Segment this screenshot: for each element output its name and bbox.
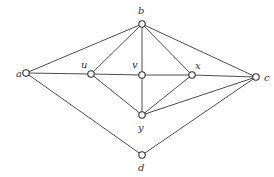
- node-label-y: y: [137, 122, 144, 133]
- node-label-v: v: [132, 59, 138, 70]
- node-d: [139, 152, 145, 158]
- graph-diagram: abuvxcyd: [0, 0, 274, 177]
- edge-a-d: [26, 73, 142, 155]
- node-b: [139, 21, 145, 27]
- node-label-c: c: [264, 72, 270, 83]
- edge-x-b: [142, 24, 192, 75]
- edge-d-c: [142, 77, 256, 155]
- graph-labels: abuvxcyd: [16, 5, 270, 173]
- node-v: [139, 72, 145, 78]
- node-a: [23, 70, 29, 76]
- edge-y-c: [142, 77, 256, 115]
- node-c: [253, 74, 259, 80]
- edge-x-y: [142, 75, 192, 115]
- node-label-x: x: [195, 60, 201, 71]
- node-u: [88, 71, 94, 77]
- edge-x-c: [192, 75, 256, 77]
- edge-a-u: [26, 73, 91, 74]
- node-label-a: a: [16, 68, 22, 79]
- edge-u-y: [91, 74, 142, 115]
- graph-edges: [26, 24, 256, 155]
- graph-nodes: [23, 21, 259, 158]
- node-y: [139, 112, 145, 118]
- edge-u-v: [91, 74, 142, 75]
- node-label-d: d: [138, 162, 144, 173]
- node-label-b: b: [138, 5, 144, 16]
- node-label-u: u: [81, 59, 87, 70]
- node-x: [189, 72, 195, 78]
